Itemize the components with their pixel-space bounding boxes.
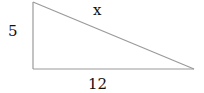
horizontal-side-label: 12 — [88, 77, 107, 92]
hypotenuse — [33, 2, 194, 69]
vertical-side-label: 5 — [8, 24, 18, 39]
hypotenuse-label: x — [93, 3, 101, 18]
